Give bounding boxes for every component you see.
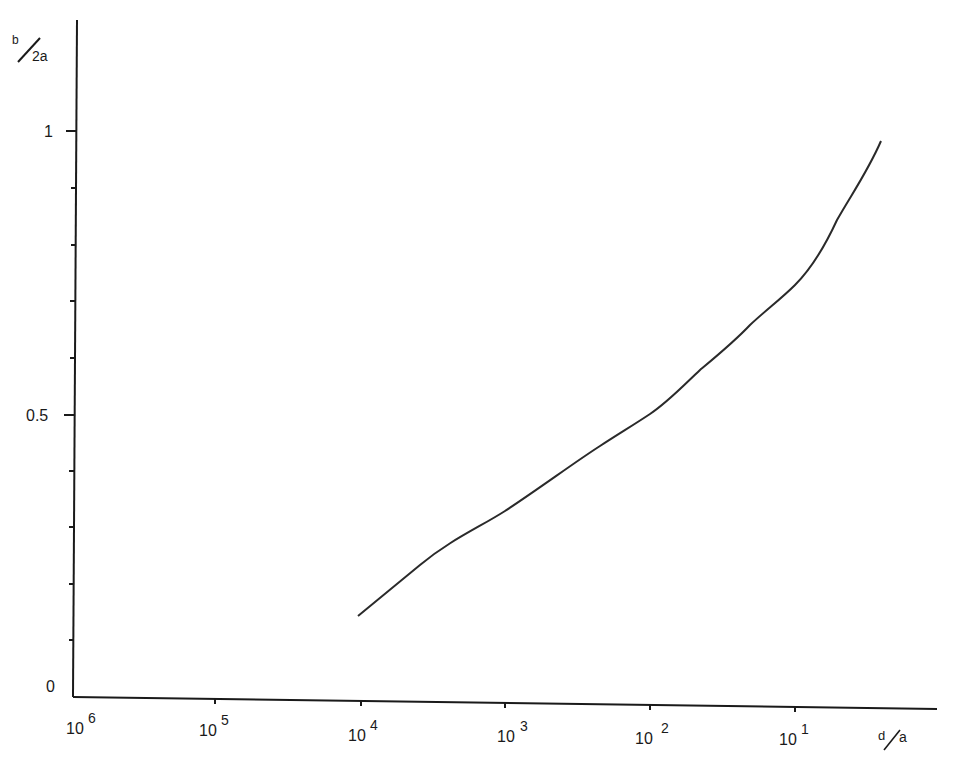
svg-text:10: 10 — [348, 727, 366, 744]
y-tick-label-0.5: 0.5 — [26, 407, 48, 424]
x-tick-label-1e2: 10 2 — [635, 720, 669, 747]
svg-text:10: 10 — [199, 722, 217, 739]
svg-text:b: b — [12, 33, 19, 47]
x-tick-label-1e6: 10 6 — [66, 710, 96, 737]
svg-text:3: 3 — [520, 718, 528, 734]
svg-text:10: 10 — [779, 731, 797, 748]
x-axis-label: d a — [878, 728, 907, 750]
svg-text:a: a — [899, 729, 907, 745]
chart-canvas: b 2a 1 0.5 0 10 6 10 5 10 4 10 3 10 2 10… — [0, 0, 958, 769]
data-curve — [358, 141, 881, 616]
svg-text:5: 5 — [221, 712, 229, 728]
y-axis-label: b 2a — [12, 33, 48, 64]
x-tick-label-1e3: 10 3 — [497, 718, 528, 745]
x-tick-label-1e1: 10 1 — [779, 721, 809, 748]
svg-text:10: 10 — [497, 728, 515, 745]
x-tick-label-1e4: 10 4 — [348, 717, 378, 744]
svg-text:2a: 2a — [32, 48, 48, 64]
svg-text:10: 10 — [635, 730, 653, 747]
svg-text:6: 6 — [88, 710, 96, 726]
svg-text:2: 2 — [661, 720, 669, 736]
x-tick-label-1e5: 10 5 — [199, 712, 229, 739]
svg-text:4: 4 — [370, 717, 378, 733]
svg-text:d: d — [878, 728, 885, 743]
svg-text:1: 1 — [801, 721, 809, 737]
y-tick-label-0: 0 — [46, 678, 55, 695]
svg-text:10: 10 — [66, 720, 84, 737]
y-tick-label-1: 1 — [44, 123, 53, 140]
